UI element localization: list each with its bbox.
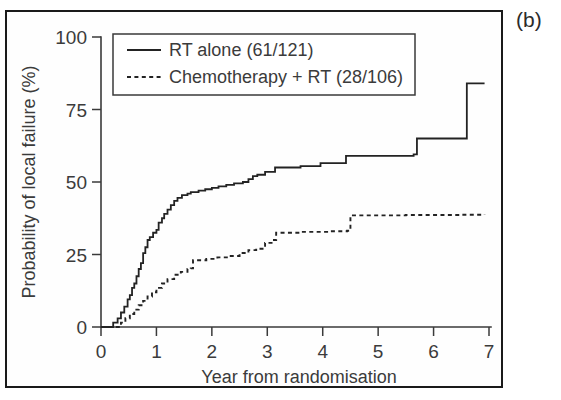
series-curve-2-chemo-rt xyxy=(101,214,485,327)
series-curve-1-rt-alone xyxy=(101,83,485,327)
y-tick-label: 50 xyxy=(66,172,87,193)
y-tick-label: 75 xyxy=(66,100,87,121)
x-tick-label: 6 xyxy=(428,341,439,362)
y-tick-label: 25 xyxy=(66,245,87,266)
y-tick-label: 100 xyxy=(55,27,87,48)
figure-root: (b) 025507510001234567 RT alone (61/121)… xyxy=(0,0,561,400)
x-axis-title: Year from randomisation xyxy=(201,367,396,387)
x-tick-label: 4 xyxy=(317,341,328,362)
legend-label-1: RT alone (61/121) xyxy=(169,40,313,60)
y-tick-label: 0 xyxy=(76,317,87,338)
legend-label-2: Chemotherapy + RT (28/106) xyxy=(169,67,403,87)
legend-group: RT alone (61/121)Chemotherapy + RT (28/1… xyxy=(113,34,415,95)
panel-label: (b) xyxy=(516,8,542,32)
x-tick-label: 1 xyxy=(151,341,162,362)
x-tick-label: 2 xyxy=(207,341,218,362)
x-tick-label: 7 xyxy=(484,341,495,362)
x-tick-label: 3 xyxy=(262,341,273,362)
kaplan-meier-chart: 025507510001234567 RT alone (61/121)Chem… xyxy=(5,10,503,388)
x-tick-label: 5 xyxy=(373,341,384,362)
x-tick-label: 0 xyxy=(96,341,107,362)
y-axis-title: Probability of local failure (%) xyxy=(19,65,39,298)
curves-group xyxy=(101,83,485,327)
